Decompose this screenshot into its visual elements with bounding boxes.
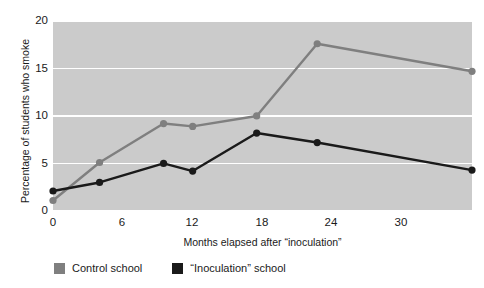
x-tick-label-0: 0 — [33, 216, 73, 228]
chart-figure: 20 15 10 5 0 0 6 12 18 24 30 Percentage … — [0, 0, 484, 288]
legend-label-inoculation-school: “Inoculation” school — [190, 262, 285, 274]
x-tick-label-6: 6 — [102, 216, 142, 228]
legend-item-inoculation-school[interactable]: “Inoculation” school — [172, 262, 285, 274]
x-tick-label-24: 24 — [311, 216, 351, 228]
legend-swatch-icon-inoculation — [172, 263, 183, 274]
x-tick-label-12: 12 — [172, 216, 212, 228]
legend-item-control-school[interactable]: Control school — [54, 262, 142, 274]
y-tick-label-20: 20 — [4, 14, 48, 26]
legend-swatch-icon-control — [54, 263, 65, 274]
x-tick-label-30: 30 — [381, 216, 421, 228]
legend-label-control-school: Control school — [72, 262, 142, 274]
x-tick-label-18: 18 — [242, 216, 282, 228]
x-axis-title: Months elapsed after “inoculation” — [53, 236, 472, 248]
y-axis-title: Percentage of students who smoke — [19, 26, 31, 216]
chart-legend: Control school “Inoculation” school — [54, 262, 286, 274]
